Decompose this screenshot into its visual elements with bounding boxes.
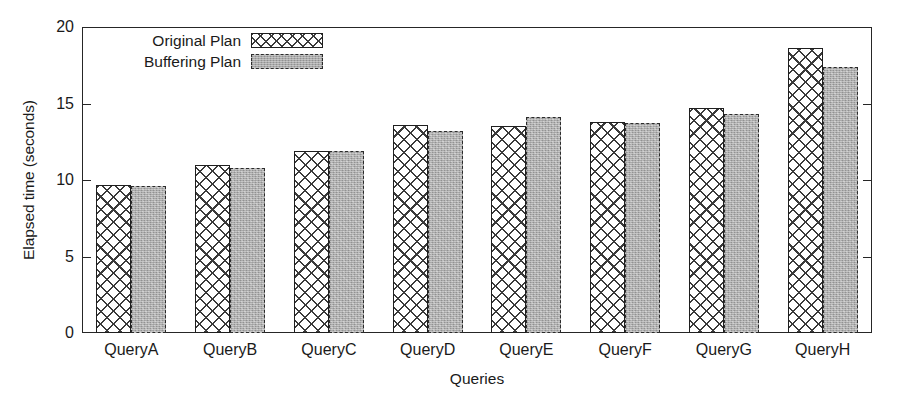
- bar-buffering-plan: [526, 117, 561, 333]
- x-axis-title: Queries: [82, 369, 872, 389]
- y-axis-tick-label: 5: [38, 249, 74, 265]
- y-axis-tick-labels: 05101520: [34, 0, 74, 402]
- bar-group: [590, 27, 660, 333]
- bar-original-plan: [590, 122, 625, 333]
- bar-original-plan: [294, 151, 329, 333]
- bar-buffering-plan: [823, 67, 858, 333]
- bar-buffering-plan: [724, 114, 759, 333]
- y-axis-tick-label: 20: [38, 19, 74, 35]
- legend-entry-original-plan: Original Plan: [144, 30, 323, 50]
- x-axis-tick-label: QueryD: [378, 340, 477, 360]
- bar-buffering-plan: [230, 168, 265, 333]
- bar-original-plan: [491, 126, 526, 333]
- bar-original-plan: [788, 48, 823, 333]
- x-axis-tick-label: QueryF: [576, 340, 675, 360]
- bar-original-plan: [96, 185, 131, 333]
- bar-group: [393, 27, 463, 333]
- bar-original-plan: [393, 125, 428, 333]
- x-axis-tick-label: QueryA: [82, 340, 181, 360]
- x-axis-tick-labels: QueryAQueryBQueryCQueryDQueryEQueryFQuer…: [82, 340, 872, 364]
- bar-group: [491, 27, 561, 333]
- legend-label-original-plan: Original Plan: [152, 31, 241, 50]
- chart-legend: Original Plan Buffering Plan: [140, 28, 327, 73]
- bar-buffering-plan: [428, 131, 463, 333]
- y-axis-tick-label: 15: [38, 96, 74, 112]
- bar-original-plan: [195, 165, 230, 333]
- x-axis-tick-label: QueryC: [280, 340, 379, 360]
- bar-buffering-plan: [131, 186, 166, 333]
- bar-group: [689, 27, 759, 333]
- legend-entry-buffering-plan: Buffering Plan: [144, 51, 323, 71]
- bar-buffering-plan: [625, 123, 660, 333]
- bar-group: [788, 27, 858, 333]
- x-axis-tick-label: QueryH: [773, 340, 872, 360]
- legend-label-buffering-plan: Buffering Plan: [144, 52, 241, 71]
- x-axis-tick-label: QueryG: [675, 340, 774, 360]
- legend-swatch-original-plan: [251, 33, 323, 48]
- y-axis-tick-label: 0: [38, 325, 74, 341]
- bar-buffering-plan: [329, 151, 364, 333]
- x-axis-tick-label: QueryB: [181, 340, 280, 360]
- bar-chart: Elapsed time (seconds) 05101520 Original…: [0, 0, 899, 402]
- x-axis-tick-label: QueryE: [477, 340, 576, 360]
- legend-swatch-buffering-plan: [251, 54, 323, 69]
- y-axis-tick-label: 10: [38, 172, 74, 188]
- bar-original-plan: [689, 108, 724, 333]
